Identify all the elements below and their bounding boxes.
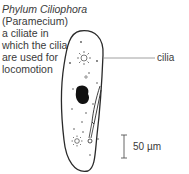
food-vacuole	[88, 139, 92, 143]
small-vacuole	[85, 76, 87, 78]
contractile-vacuole-bottom-icon	[72, 136, 83, 147]
cilia-label: cilia	[157, 52, 174, 63]
scale-label: 50 µm	[133, 141, 161, 152]
macronucleus	[76, 85, 89, 104]
contractile-vacuole-top-icon	[77, 51, 91, 65]
scale-bar	[121, 135, 127, 158]
